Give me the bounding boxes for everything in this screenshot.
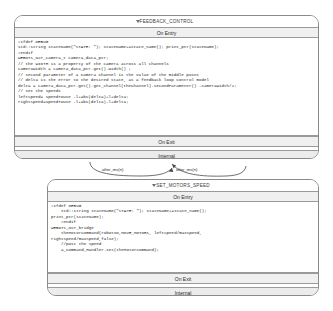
section-header-internal[interactable]: Internal [15, 150, 318, 159]
section-header-internal[interactable]: Internal [48, 287, 318, 296]
triangle-down-icon[interactable] [152, 184, 156, 187]
section-label: Internal [158, 153, 175, 159]
triangle-down-icon[interactable] [136, 20, 140, 23]
section-label: On Entry [173, 194, 193, 200]
section-label: Internal [175, 290, 192, 296]
section-header-on-entry[interactable]: On Entry [48, 191, 318, 202]
transition-label-2[interactable]: after_ms(n) [176, 167, 197, 172]
section-label: On Entry [157, 30, 177, 36]
section-label: On Exit [158, 139, 174, 145]
diagram-canvas: FEEDBACK_CONTROL On Entry #ifdef DEBUG s… [0, 0, 333, 311]
section-label: On Exit [175, 276, 191, 282]
state-block-set-motors-speed[interactable]: SET_MOTORS_SPEED On Entry #ifdef DEBUG s… [47, 179, 319, 296]
section-header-on-exit[interactable]: On Exit [48, 273, 318, 284]
on-entry-code-editor[interactable]: #ifdef DEBUG std::string stateName("STAT… [15, 38, 318, 136]
state-title-label: SET_MOTORS_SPEED [156, 183, 210, 188]
section-header-on-exit[interactable]: On Exit [15, 136, 318, 147]
state-block-feedback-control[interactable]: FEEDBACK_CONTROL On Entry #ifdef DEBUG s… [14, 15, 319, 159]
state-title-bar[interactable]: SET_MOTORS_SPEED [48, 180, 318, 191]
state-title-bar[interactable]: FEEDBACK_CONTROL [15, 16, 318, 27]
section-header-on-entry[interactable]: On Entry [15, 27, 318, 38]
on-entry-code-editor[interactable]: #ifdef DEBUG std::string stateName("STAT… [48, 202, 318, 273]
state-title-label: FEEDBACK_CONTROL [140, 19, 194, 24]
transition-label-1[interactable]: after_ms(n) [102, 167, 123, 172]
